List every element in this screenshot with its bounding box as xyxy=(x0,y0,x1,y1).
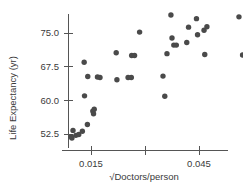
y-tick-label: 52.5 xyxy=(41,128,60,139)
data-point xyxy=(204,24,209,29)
data-point xyxy=(184,40,189,45)
data-point xyxy=(236,14,241,19)
y-tick-label: 75.0 xyxy=(41,27,60,38)
data-point xyxy=(240,52,243,57)
x-tick-label: 0.015 xyxy=(79,158,103,169)
data-point xyxy=(85,74,90,79)
data-point xyxy=(85,122,90,127)
y-axis: 52.560.067.575.0 Life Expectancy (yr) xyxy=(7,14,73,148)
data-point xyxy=(114,77,119,82)
data-point xyxy=(162,94,167,99)
y-axis-title: Life Expectancy (yr) xyxy=(7,56,18,140)
scatter-plot-figure: 52.560.067.575.0 Life Expectancy (yr) 0.… xyxy=(0,0,243,192)
data-point xyxy=(92,107,97,112)
y-tick-label: 67.5 xyxy=(41,61,60,72)
data-point xyxy=(160,73,165,78)
data-point xyxy=(168,12,173,17)
plot-canvas: 52.560.067.575.0 Life Expectancy (yr) 0.… xyxy=(0,0,243,192)
data-point xyxy=(70,128,75,133)
data-point-group xyxy=(69,12,244,140)
data-point xyxy=(97,75,102,80)
data-point xyxy=(194,16,199,21)
data-point xyxy=(195,32,200,37)
x-axis-title: √Doctors/person xyxy=(109,171,179,182)
data-point xyxy=(82,93,87,98)
data-point xyxy=(114,50,119,55)
data-point xyxy=(186,24,191,29)
y-tick-label: 60.0 xyxy=(41,95,60,106)
data-point xyxy=(132,53,137,58)
x-tick-label: 0.045 xyxy=(187,158,211,169)
data-point xyxy=(202,52,207,57)
y-tick-label-group: 52.560.067.575.0 xyxy=(41,27,60,139)
data-point xyxy=(164,51,169,56)
data-point xyxy=(174,42,179,47)
data-point xyxy=(81,59,86,64)
data-point xyxy=(80,129,85,134)
data-point xyxy=(129,75,134,80)
x-axis: 0.0150.045 √Doctors/person xyxy=(62,146,243,182)
data-point xyxy=(137,29,142,34)
data-point xyxy=(169,35,174,40)
x-tick-label-group: 0.0150.045 xyxy=(79,158,211,169)
